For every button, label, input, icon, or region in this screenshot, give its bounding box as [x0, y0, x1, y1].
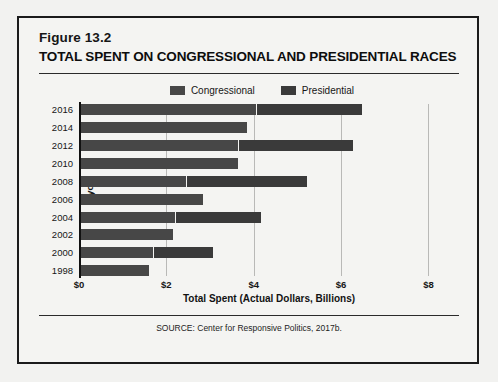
chart-legend: CongressionalPresidential [39, 85, 459, 96]
y-axis-tick-label: 2010 [52, 158, 73, 169]
source-note: SOURCE: Center for Responsive Politics, … [39, 323, 459, 333]
x-axis-tick-label: $2 [161, 279, 172, 290]
source-divider [39, 315, 459, 316]
bar-segment-congressional [79, 247, 153, 258]
bars-layer: 2016201420122010200820062004200220001998 [79, 104, 459, 276]
x-axis-title: Total Spent (Actual Dollars, Billions) [79, 293, 459, 304]
y-axis-tick-label: 2002 [52, 229, 73, 240]
bar-segment-presidential [153, 247, 213, 258]
y-axis-tick-label: 2004 [52, 212, 73, 223]
y-axis-tick-label: 2008 [52, 176, 73, 187]
legend-entry-congressional: Congressional [170, 85, 255, 96]
bar-segment-congressional [79, 122, 247, 133]
x-axis-tick-label: $6 [336, 279, 347, 290]
y-axis-tick-label: 2006 [52, 194, 73, 205]
legend-swatch-icon [170, 86, 185, 95]
figure-title: TOTAL SPENT ON CONGRESSIONAL AND PRESIDE… [39, 49, 459, 65]
bar-row: 2008 [79, 176, 459, 187]
bar-segment-presidential [238, 140, 353, 151]
bar-segment-congressional [79, 194, 203, 205]
bar-row: 2012 [79, 140, 459, 151]
y-axis-tick-label: 2000 [52, 247, 73, 258]
bar-row: 2016 [79, 104, 459, 115]
bar-row: 2010 [79, 158, 459, 169]
bar-segment-congressional [79, 212, 175, 223]
bar-row: 2006 [79, 194, 459, 205]
figure-number: Figure 13.2 [39, 31, 459, 46]
legend-label: Presidential [302, 85, 354, 96]
bar-segment-congressional [79, 265, 149, 276]
bar-segment-congressional [79, 158, 238, 169]
y-axis-tick-label: 2012 [52, 140, 73, 151]
y-axis-line [79, 102, 81, 278]
bar-segment-presidential [186, 176, 307, 187]
bar-row: 2004 [79, 212, 459, 223]
y-axis-tick-label: 2014 [52, 122, 73, 133]
x-axis-tick-label: $8 [423, 279, 434, 290]
plot-area: Cycle 2016201420122010200820062004200220… [79, 104, 459, 276]
bar-row: 2002 [79, 229, 459, 240]
bar-segment-congressional [79, 229, 173, 240]
bar-row: 1998 [79, 265, 459, 276]
bar-segment-presidential [256, 104, 362, 115]
bar-segment-presidential [175, 212, 261, 223]
legend-label: Congressional [191, 85, 255, 96]
title-divider [39, 73, 459, 74]
figure-frame: Figure 13.2 TOTAL SPENT ON CONGRESSIONAL… [17, 16, 479, 364]
bar-segment-congressional [79, 104, 256, 115]
y-axis-tick-label: 2016 [52, 104, 73, 115]
bar-row: 2014 [79, 122, 459, 133]
x-axis-tick-label: $4 [248, 279, 259, 290]
legend-swatch-icon [281, 86, 296, 95]
bar-row: 2000 [79, 247, 459, 258]
x-axis-ticks: $0$2$4$6$8 [79, 276, 459, 292]
bar-segment-congressional [79, 140, 238, 151]
figure-inner: Figure 13.2 TOTAL SPENT ON CONGRESSIONAL… [19, 18, 477, 362]
x-axis-tick-label: $0 [74, 279, 85, 290]
y-axis-tick-label: 1998 [52, 265, 73, 276]
legend-entry-presidential: Presidential [281, 85, 354, 96]
bar-segment-congressional [79, 176, 186, 187]
